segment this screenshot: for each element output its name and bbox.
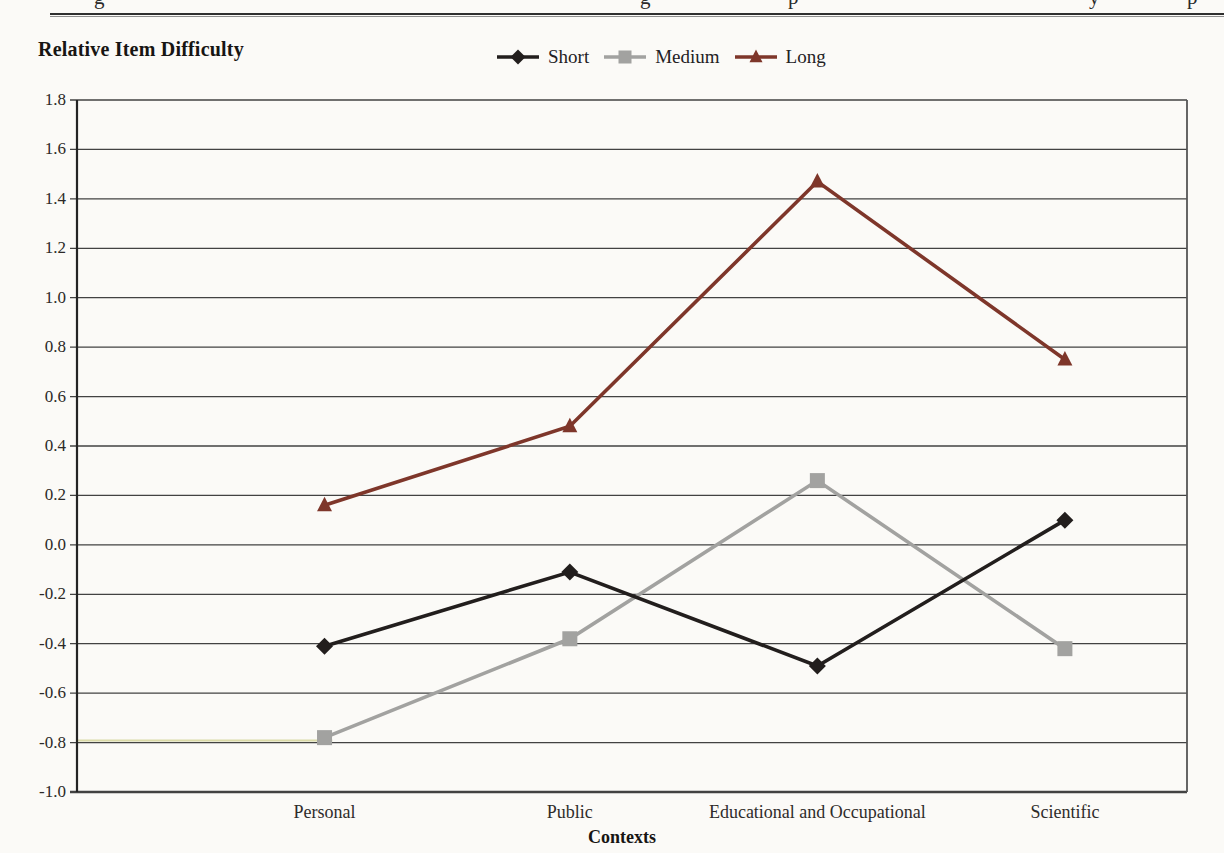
series-line-medium [325,481,1065,738]
text-fragment: g [640,0,651,9]
legend-item-long: Long [734,46,826,68]
legend-label: Long [786,46,826,68]
horizontal-rule [50,13,1224,17]
y-tick-label: 0.4 [0,436,66,456]
y-tick-label: 1.6 [0,139,66,159]
plot-area [77,100,1187,792]
y-tick-label: 1.8 [0,90,66,110]
series-marker-short [1056,512,1073,529]
series-marker-short [316,638,333,655]
y-tick-label: -0.6 [0,683,66,703]
legend-marker-shape [511,50,526,65]
y-tick-label: -0.4 [0,634,66,654]
chart-title: Relative Item Difficulty [38,38,244,61]
x-axis-title: Contexts [522,827,722,848]
legend-marker-diamond-icon [496,49,540,65]
legend-item-medium: Medium [603,46,719,68]
series-marker-long [1057,351,1072,366]
y-tick-label: 0.2 [0,485,66,505]
series-marker-medium [562,631,577,646]
legend-label: Medium [655,46,719,68]
y-tick-label: 0.8 [0,337,66,357]
y-tick-label: 0.0 [0,535,66,555]
legend-item-short: Short [496,46,589,68]
text-fragment: p [788,0,799,9]
y-tick-label: 1.2 [0,238,66,258]
legend-marker-shape [619,51,632,64]
series-marker-medium [810,473,825,488]
y-tick-label: -0.8 [0,733,66,753]
scanned-book-page: ggpyp Relative Item Difficulty ShortMedi… [0,0,1224,853]
legend-marker-triangle-icon [734,49,778,65]
cropped-text-line: ggpyp [0,0,1224,9]
series-marker-medium [1057,641,1072,656]
series-marker-short [561,564,578,581]
text-fragment: p [1187,0,1198,9]
y-tick-label: -1.0 [0,782,66,802]
y-tick-label: 1.0 [0,288,66,308]
legend-marker-square-icon [603,49,647,65]
series-line-long [325,182,1065,506]
series-marker-short [809,657,826,674]
text-fragment: g [94,0,105,9]
series-marker-medium [317,730,332,745]
text-fragment: y [1089,0,1100,9]
y-tick-label: -0.2 [0,584,66,604]
x-category-label: Scientific [915,802,1215,823]
series-marker-long [810,173,825,188]
y-tick-label: 0.6 [0,387,66,407]
y-tick-label: 1.4 [0,189,66,209]
legend-label: Short [548,46,589,68]
chart-legend: ShortMediumLong [496,46,826,68]
